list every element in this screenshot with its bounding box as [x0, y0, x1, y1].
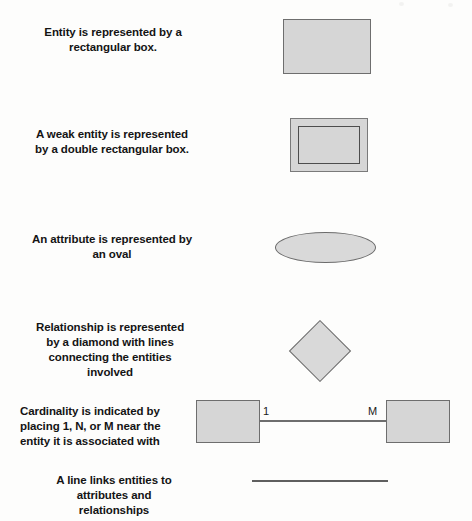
caption-line: by a double rectangular box.	[16, 142, 208, 157]
caption-line: Entity is represented by a	[18, 25, 208, 40]
entity-rectangle-symbol	[283, 19, 371, 74]
caption-line: an oval	[16, 247, 208, 262]
caption-line: placing 1, N, or M near the	[20, 419, 200, 434]
caption-relationship: Relationship is represented by a diamond…	[14, 320, 206, 380]
cardinality-label-left: 1	[263, 406, 269, 417]
caption-line-symbol: A line links entities to attributes and …	[22, 473, 206, 518]
caption-line: Cardinality is indicated by	[20, 404, 200, 419]
caption-attribute: An attribute is represented by an oval	[16, 232, 208, 262]
cardinality-right-entity-box	[386, 400, 450, 443]
caption-line: rectangular box.	[18, 40, 208, 55]
caption-line: A weak entity is represented	[16, 127, 208, 142]
caption-line: attributes and	[22, 488, 206, 503]
link-line-symbol	[252, 480, 388, 482]
caption-line: by a diamond with lines	[14, 335, 206, 350]
caption-line: connecting the entities	[14, 350, 206, 365]
caption-cardinality: Cardinality is indicated by placing 1, N…	[20, 404, 200, 449]
cardinality-label-right: M	[368, 406, 377, 417]
scan-artifact-speck	[448, 3, 453, 7]
caption-line: Relationship is represented	[14, 320, 206, 335]
scan-artifact-speck	[399, 2, 404, 6]
weak-entity-outer-rectangle-symbol	[290, 118, 368, 172]
weak-entity-inner-rectangle-symbol	[298, 126, 360, 164]
attribute-oval-symbol	[275, 232, 376, 263]
caption-line: relationships	[22, 503, 206, 518]
caption-weak-entity: A weak entity is represented by a double…	[16, 127, 208, 157]
caption-entity: Entity is represented by a rectangular b…	[18, 25, 208, 55]
caption-line: entity it is associated with	[20, 434, 200, 449]
cardinality-connector-line	[259, 420, 387, 422]
caption-line: An attribute is represented by	[16, 232, 208, 247]
caption-line: A line links entities to	[22, 473, 206, 488]
caption-line: involved	[14, 365, 206, 380]
cardinality-left-entity-box	[196, 400, 260, 443]
